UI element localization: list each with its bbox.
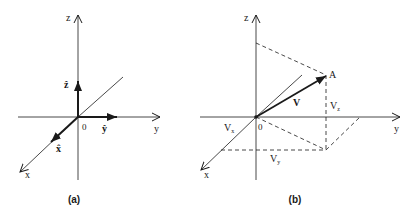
x-axis-label: x <box>25 169 30 180</box>
vy-label: Vy <box>270 153 280 165</box>
z-axis-label: z <box>66 12 71 23</box>
x-axis-back <box>78 77 123 117</box>
x-axis-back <box>256 75 302 117</box>
origin-label: 0 <box>258 122 263 132</box>
panel-a: z y x 0 ẑ ŷ x̂ (a) <box>18 12 160 205</box>
y-hat-label: ŷ <box>102 123 107 134</box>
vx-label: Vx <box>224 122 234 134</box>
coordinate-diagram: z y x 0 ẑ ŷ x̂ (a) z y x 0 A V Vz Vx Vy … <box>0 0 417 217</box>
dash-origin-to-base <box>256 117 326 150</box>
panel-b-caption: (b) <box>289 194 302 205</box>
z-hat-label: ẑ <box>64 79 69 90</box>
z-axis-label: z <box>244 12 249 23</box>
panel-a-caption: (a) <box>68 194 80 205</box>
vz-label: Vz <box>330 100 340 112</box>
origin-dot <box>254 115 258 119</box>
origin-label: 0 <box>82 122 87 132</box>
vector-V-arrow <box>256 76 326 117</box>
point-A-label: A <box>329 69 337 80</box>
vector-V-label: V <box>293 97 301 108</box>
y-axis-label: y <box>394 123 399 134</box>
dash-z-to-A <box>256 43 326 75</box>
y-axis-label: y <box>154 123 159 134</box>
panel-b: z y x 0 A V Vz Vx Vy (b) <box>200 12 400 205</box>
dash-base-to-y <box>326 117 360 150</box>
x-hat-arrow <box>51 117 78 142</box>
x-hat-label: x̂ <box>56 143 61 154</box>
x-axis-label: x <box>204 169 209 180</box>
